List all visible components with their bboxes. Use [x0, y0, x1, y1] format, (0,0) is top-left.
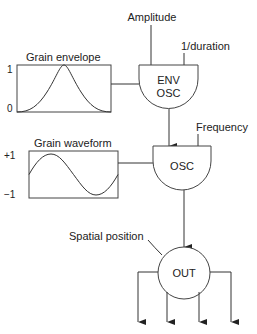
spatial-position-leader [148, 240, 162, 255]
envelope-ymax: 1 [7, 64, 13, 75]
envelope-table [17, 65, 111, 112]
spatial-position-label: Spatial position [69, 230, 144, 242]
waveform-ymin: −1 [4, 189, 16, 200]
amplitude-label: Amplitude [128, 11, 177, 23]
out-label: OUT [172, 267, 196, 279]
waveform-ymax: +1 [4, 150, 16, 161]
output-1-arrow [138, 272, 158, 322]
frequency-label: Frequency [196, 121, 248, 133]
env-osc-label-1: ENV [157, 74, 180, 86]
env-osc-label-2: OSC [157, 87, 181, 99]
envelope-label: Grain envelope [26, 51, 101, 63]
duration-label: 1/duration [181, 40, 230, 52]
granular-synthesis-diagram: Amplitude 1/duration Grain envelope 1 0 … [0, 0, 257, 334]
envelope-ymin: 0 [7, 103, 13, 114]
osc-label: OSC [170, 160, 194, 172]
output-4-arrow [210, 272, 231, 322]
waveform-label: Grain waveform [34, 137, 112, 149]
